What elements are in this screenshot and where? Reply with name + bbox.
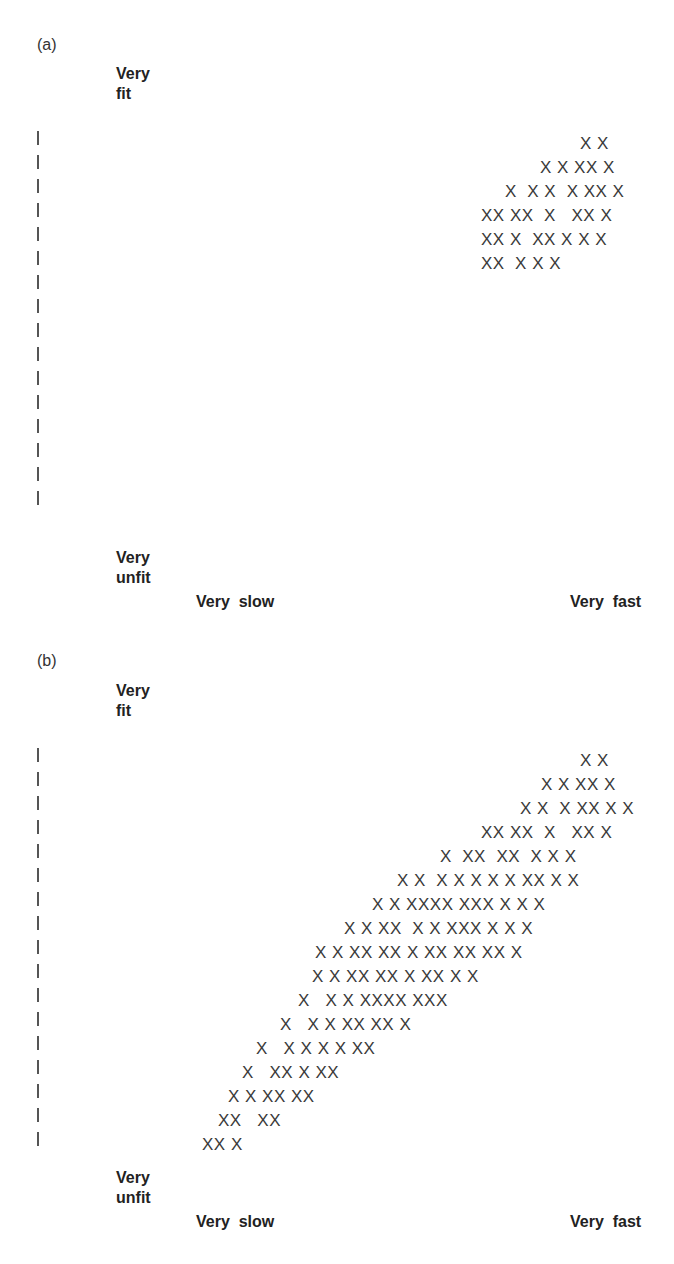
data-row: X X X XXXX XXX [298, 991, 448, 1011]
y-tick-mark [37, 748, 39, 762]
y-tick-mark [37, 1084, 39, 1098]
data-row: X X X XX XX X [280, 1015, 411, 1035]
y-tick-mark [37, 820, 39, 834]
data-row: X X XX XX [228, 1087, 315, 1107]
data-row: X XX XX X X X [440, 847, 577, 867]
data-row: X X XX X [541, 775, 616, 795]
x-right-label-b: Very fast [570, 1212, 641, 1232]
data-row: X X XX XX X XX XX XX X [315, 943, 523, 963]
y-tick-mark [37, 868, 39, 882]
y-tick-mark [37, 1012, 39, 1026]
y-bottom-label-b: Very unfit [116, 1168, 151, 1208]
panel-b: (b) Very fit X XX X XX XX X X XX X XXX X… [0, 0, 674, 1264]
data-row: X X XXXX XXX X X X [372, 895, 545, 915]
panel-b-label: (b) [37, 652, 57, 670]
y-tick-mark [37, 772, 39, 786]
data-row: X X XX X X XXX X X X [344, 919, 533, 939]
data-row: X X XX XX X XX X X [312, 967, 479, 987]
data-row: X X X X X X X XX X X [397, 871, 579, 891]
y-tick-mark [37, 1036, 39, 1050]
data-row: X XX X XX [242, 1063, 339, 1083]
y-tick-mark [37, 1108, 39, 1122]
data-row: X X X X X XX [256, 1039, 375, 1059]
y-tick-mark [37, 964, 39, 978]
y-tick-mark [37, 1132, 39, 1146]
y-tick-mark [37, 892, 39, 906]
y-tick-mark [37, 916, 39, 930]
y-tick-mark [37, 844, 39, 858]
y-tick-mark [37, 940, 39, 954]
x-left-label-b: Very slow [196, 1212, 274, 1232]
data-row: XX XX [218, 1111, 281, 1131]
data-row: XX XX X XX X [481, 823, 612, 843]
y-tick-mark [37, 988, 39, 1002]
data-row: X X [580, 751, 609, 771]
data-row: XX X [202, 1135, 243, 1155]
y-top-label-b: Very fit [116, 681, 150, 721]
y-tick-mark [37, 1060, 39, 1074]
y-tick-mark [37, 796, 39, 810]
data-row: X X X XX X X [520, 799, 634, 819]
